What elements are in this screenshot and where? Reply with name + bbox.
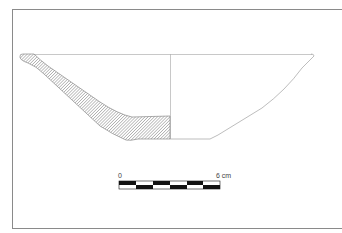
scale-start-label: 0 (118, 172, 122, 179)
exterior-outline (170, 54, 314, 139)
hatched-section (20, 54, 170, 140)
scale-bar (119, 181, 220, 189)
scale-end-label: 6 cm (216, 172, 231, 179)
